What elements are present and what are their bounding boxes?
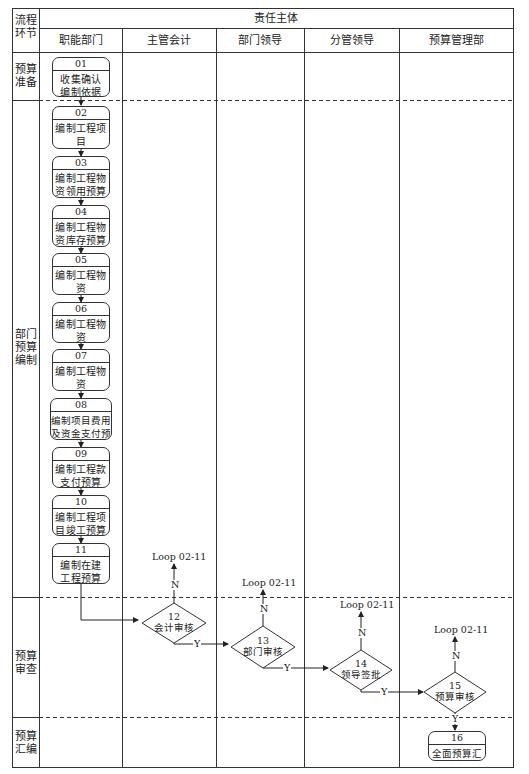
node-text: 编制工程项目竣工预算 (53, 509, 109, 536)
process-node-11[interactable]: 11 编制在建工程预算 (52, 543, 110, 584)
node-text: 编制工程项目总预算 (53, 120, 109, 149)
process-node-16[interactable]: 16 全面预算汇编 (428, 731, 486, 761)
swimlane-flowchart: 流程 环节 责任主体 职能部门 主管会计 部门领导 分管领导 预算管理部 预算 … (0, 0, 529, 774)
process-node-09[interactable]: 09 编制工程款支付预算 (52, 447, 110, 488)
stage-line: 预算 (12, 730, 39, 743)
node-text: 收集确认编制依据 (53, 71, 109, 97)
process-node-01[interactable]: 01 收集确认编制依据 (52, 57, 110, 97)
stage-line: 准备 (12, 76, 39, 89)
node-text-line1: 编制工程物资 (55, 366, 107, 390)
node-number: 03 (53, 157, 109, 170)
no-label-12: N (170, 580, 180, 590)
node-text-line1: 编制工程款 (55, 464, 107, 475)
stage-line: 预算 (12, 63, 39, 76)
yes-label-13: Y (283, 663, 291, 673)
node-number: 08 (51, 399, 111, 412)
node-text: 全面预算汇编 (429, 745, 485, 761)
stage-line: 汇编 (12, 743, 39, 756)
node-number: 05 (53, 254, 109, 267)
node-text: 编制工程物资库存预算 (53, 219, 109, 247)
stage-line: 预算 (12, 341, 39, 354)
node-number: 01 (53, 58, 109, 71)
process-node-06[interactable]: 06 编制工程物资采购付款预算 (52, 302, 110, 343)
stage-column-header: 流程 环节 (12, 14, 39, 40)
loop-label-12: Loop 02-11 (152, 551, 206, 562)
stage-budget-review: 预算 审查 (12, 650, 39, 676)
node-text: 编制工程物资领用预算 (53, 170, 109, 198)
stage-line: 编制 (12, 354, 39, 367)
lane-header-dept-leader: 部门领导 (216, 34, 304, 47)
decision-number: 12 (144, 611, 204, 622)
decision-14[interactable]: 14 领导签批 (331, 658, 391, 680)
node-text-line1: 编制在建 (60, 560, 101, 571)
node-text-line1: 编制项目费用 (51, 415, 111, 426)
node-text-line2: 支付预算 (60, 477, 101, 488)
node-text-line1: 编制工程项目 (55, 123, 107, 147)
stage-dept-budget-compile: 部门 预算 编制 (12, 328, 39, 367)
node-text: 编制在建工程预算 (53, 557, 109, 584)
process-node-02[interactable]: 02 编制工程项目总预算 (52, 106, 110, 149)
no-label-13: N (259, 604, 269, 614)
yes-label-15: Y (451, 714, 459, 724)
node-text-line1: 编制工程物资 (55, 319, 107, 343)
lane-header-supervising-leader: 分管领导 (304, 34, 399, 47)
node-text-line2: 目竣工预算 (55, 525, 107, 536)
stage-line: 部门 (12, 328, 39, 341)
stage-budget-consolidation: 预算 汇编 (12, 730, 39, 756)
node-text-line2: 及资金支付预算 (51, 428, 111, 440)
yes-label-14: Y (380, 687, 388, 697)
stage-line: 审查 (12, 663, 39, 676)
yes-label-12: Y (193, 639, 201, 649)
process-node-05[interactable]: 05 编制工程物资采购预算 (52, 253, 110, 295)
node-text-line2: 工程预算 (60, 573, 101, 584)
node-number: 16 (429, 732, 485, 745)
lane-header-chief-accountant: 主管会计 (122, 34, 216, 47)
node-number: 11 (53, 544, 109, 557)
decision-number: 13 (233, 635, 293, 646)
decision-12[interactable]: 12 会计审核 (144, 611, 204, 633)
node-text-line1: 编制工程物 (55, 222, 107, 233)
node-number: 06 (53, 303, 109, 316)
process-node-04[interactable]: 04 编制工程物资库存预算 (52, 205, 110, 247)
no-label-15: N (451, 651, 461, 661)
node-number: 07 (53, 350, 109, 363)
decision-label: 领导签批 (331, 669, 391, 680)
decision-number: 14 (331, 658, 391, 669)
loop-label-14: Loop 02-11 (340, 599, 394, 610)
decision-label: 预算审核 (425, 691, 485, 702)
node-text-line2: 编制依据 (60, 87, 101, 97)
responsible-title: 责任主体 (39, 12, 513, 25)
lane-header-budget-mgmt: 预算管理部 (399, 34, 513, 47)
decision-number: 15 (425, 680, 485, 691)
node-text-line1: 收集确认 (60, 74, 101, 85)
process-node-03[interactable]: 03 编制工程物资领用预算 (52, 156, 110, 198)
process-node-07[interactable]: 07 编制工程物资应付账款预算 (52, 349, 110, 391)
node-text-line2: 资领用预算 (55, 186, 107, 197)
loop-label-15: Loop 02-11 (434, 624, 488, 635)
process-node-10[interactable]: 10 编制工程项目竣工预算 (52, 495, 110, 536)
node-text: 编制工程款支付预算 (53, 461, 109, 488)
stage-header-line1: 流程 (12, 14, 39, 27)
decision-label: 部门审核 (233, 646, 293, 657)
node-text: 编制项目费用及资金支付预算 (51, 412, 111, 440)
stage-header-line2: 环节 (12, 27, 39, 40)
node-text: 编制工程物资采购付款预算 (53, 316, 109, 343)
decision-13[interactable]: 13 部门审核 (233, 635, 293, 657)
loop-label-13: Loop 02-11 (242, 577, 296, 588)
decision-15[interactable]: 15 预算审核 (425, 680, 485, 702)
node-number: 02 (53, 107, 109, 120)
node-number: 09 (53, 448, 109, 461)
no-label-14: N (357, 628, 367, 638)
node-text-line2: 资库存预算 (55, 235, 107, 246)
stage-budget-prep: 预算 准备 (12, 63, 39, 89)
node-number: 10 (53, 496, 109, 509)
node-number: 04 (53, 206, 109, 219)
stage-line: 预算 (12, 650, 39, 663)
process-node-08[interactable]: 08 编制项目费用及资金支付预算 (50, 398, 112, 440)
decision-label: 会计审核 (144, 622, 204, 633)
node-text: 编制工程物资采购预算 (53, 267, 109, 295)
node-text-line1: 编制工程物 (55, 173, 107, 184)
node-text-line1: 编制工程物资 (55, 270, 107, 294)
lane-header-functional-dept: 职能部门 (39, 34, 122, 47)
node-text: 编制工程物资应付账款预算 (53, 363, 109, 391)
